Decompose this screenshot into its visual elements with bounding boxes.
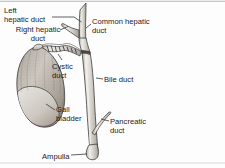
ampulla <box>86 144 98 160</box>
label-right-hepatic-duct: Right hepatic duct <box>9 25 67 43</box>
label-gall-bladder: Gall bladder <box>56 105 81 123</box>
label-cystic-duct: Cystic duct <box>52 62 73 80</box>
label-left-hepatic-duct: Left hepatic duct <box>4 6 45 24</box>
bile-duct <box>81 50 98 151</box>
label-bile-duct: Bile duct <box>104 75 133 84</box>
leader-cystic-duct <box>58 54 62 60</box>
leader-bile-duct <box>96 78 103 79</box>
leader-ampulla <box>71 154 87 155</box>
left-hepatic-duct <box>79 3 86 41</box>
leader-left-hepatic-duct <box>52 17 82 22</box>
leader-common-hepatic-duct <box>86 24 91 28</box>
label-common-hepatic-duct: Common hepatic duct <box>92 17 150 35</box>
biliary-system-figure: Left hepatic duct Right hepatic duct Com… <box>0 0 225 168</box>
label-pancreatic-duct: Pancreatic duct <box>110 117 146 135</box>
label-ampulla: Ampulla <box>42 152 70 161</box>
